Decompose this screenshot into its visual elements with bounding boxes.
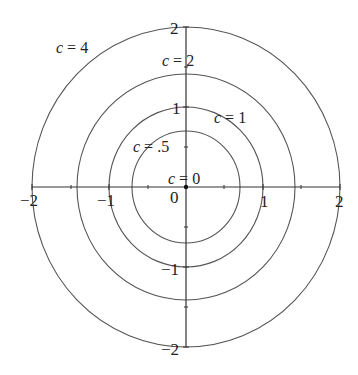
y-tick-label: 1	[172, 99, 181, 118]
x-tick-label: 2	[335, 192, 344, 211]
y-tick-label: −1	[161, 260, 179, 279]
y-tick-label: −2	[161, 340, 179, 359]
curve-label-c-0: c= 0	[168, 170, 200, 187]
y-tick-label: 2	[170, 19, 179, 38]
x-tick-label: −2	[20, 191, 38, 210]
x-tick-label: 0	[170, 188, 179, 207]
curve-label-c-0.5: c= .5	[133, 138, 169, 155]
level-curves-plot: −2 −1 0 1 2 2 1 −1 −2 c= 4 c= 2 c= 1 c= …	[0, 0, 358, 375]
x-tick-label: 1	[260, 192, 269, 211]
curve-label-c-1: c= 1	[214, 109, 246, 126]
x-tick-label: −1	[97, 191, 115, 210]
curve-label-c-4: c= 4	[56, 39, 88, 56]
curve-label-c-2: c= 2	[162, 52, 194, 69]
